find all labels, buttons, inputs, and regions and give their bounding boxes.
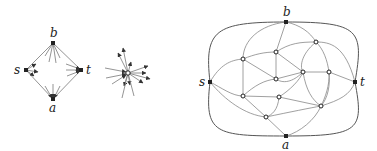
diagram-svg: b s t a [0,0,377,151]
planar-graph-outer [209,22,359,136]
graph-label-t: t [360,75,365,89]
planar-graph-terminals [208,20,357,138]
diamond-label-a: a [49,101,56,115]
diamond-label-t: t [86,63,91,77]
planar-graph-edges [210,22,355,136]
diamond-label-b: b [50,26,58,40]
graph-label-b: b [283,5,291,19]
diamond-graph [26,43,81,99]
graph-label-s: s [199,75,205,89]
figure-canvas: b s t a [0,0,377,151]
graph-label-a: a [282,138,289,151]
star-center-node [126,71,130,75]
diamond-label-s: s [14,63,20,77]
planar-graph-inner-nodes [241,40,331,119]
